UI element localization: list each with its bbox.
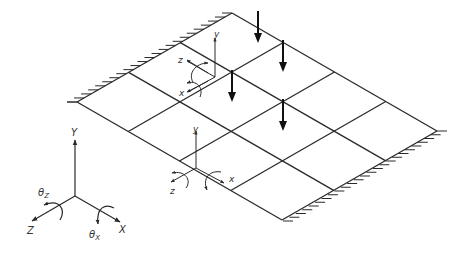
local-axes-top xyxy=(187,38,215,97)
global-z-arrow-icon xyxy=(32,196,75,221)
local-rot-z-icon xyxy=(191,63,208,82)
mesh-line xyxy=(231,102,386,191)
plate-diagram: y z x y z x Y Z X θZ θX xyxy=(0,0,468,253)
local-rot-x-icon xyxy=(187,82,201,97)
local-z-arrow-icon xyxy=(187,60,208,73)
mesh-line xyxy=(128,43,283,132)
plate-mesh xyxy=(77,13,437,220)
local-y-label-bottom: y xyxy=(192,124,199,134)
global-rot-z-icon xyxy=(44,203,62,220)
global-rot-x-icon xyxy=(98,206,114,224)
fixed-support-hatching xyxy=(0,0,447,221)
local-z-label-top: z xyxy=(177,55,183,65)
local-y-label-top: y xyxy=(213,29,220,39)
local-x-arrow-icon xyxy=(196,168,224,183)
global-y-label: Y xyxy=(71,127,78,138)
global-x-label: X xyxy=(118,224,127,235)
theta-z-label: θZ xyxy=(38,187,49,200)
local-z-arrow-icon xyxy=(171,168,196,182)
local-x-label-bottom: x xyxy=(228,174,235,184)
global-axes xyxy=(32,140,120,224)
theta-x-label: θX xyxy=(89,229,100,242)
load-arrow-icon xyxy=(228,70,236,102)
point-loads xyxy=(228,11,287,131)
mesh-line xyxy=(180,72,335,161)
local-x-label-top: x xyxy=(178,88,185,98)
mesh-line xyxy=(282,131,437,220)
local-z-label-bottom: z xyxy=(169,186,175,196)
global-z-label: Z xyxy=(26,225,35,236)
